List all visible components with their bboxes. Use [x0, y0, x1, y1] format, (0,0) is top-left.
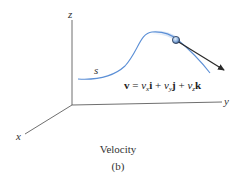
- velocity-vector-arrow: [177, 41, 224, 70]
- particle-icon: [172, 36, 179, 43]
- eq-lhs: v: [124, 79, 130, 91]
- path-label: s: [94, 65, 98, 76]
- x-axis: [25, 105, 72, 134]
- figure-sublabel: (b): [18, 161, 218, 172]
- eq-plus1: +: [155, 79, 161, 91]
- x-axis-label: x: [16, 131, 21, 142]
- figure-caption: Velocity: [18, 144, 218, 155]
- eq-term2-unit: j: [172, 79, 176, 91]
- velocity-equation: v = vxi + vyj + vzk: [124, 80, 201, 93]
- eq-term3-unit: k: [195, 79, 201, 91]
- z-axis-label: z: [68, 9, 72, 20]
- eq-plus2: +: [178, 79, 184, 91]
- eq-equals: =: [132, 79, 138, 91]
- y-axis-label: y: [224, 96, 229, 107]
- y-axis: [72, 102, 222, 105]
- eq-term1-unit: i: [149, 79, 152, 91]
- velocity-figure: z y x s v = vxi + vyj + vzk Velocity (b): [0, 0, 249, 185]
